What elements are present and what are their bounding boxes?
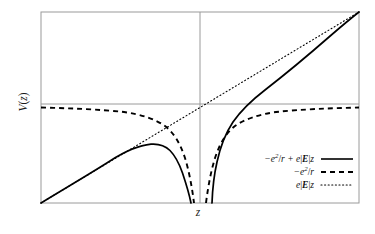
- legend-sample-solid: [320, 154, 354, 164]
- legend-item-total-potential: −e2/r + e|E|z: [222, 152, 354, 165]
- legend-label-field-potential: e|E|z: [296, 180, 320, 190]
- legend-label-total-potential: −e2/r + e|E|z: [264, 152, 320, 164]
- legend-sample-dashed: [320, 167, 354, 177]
- legend-item-coulomb-potential: −e2/r: [222, 165, 354, 178]
- legend-label-coulomb-potential: −e2/r: [294, 165, 320, 177]
- legend: −e2/r + e|E|z −e2/r e|E|z: [222, 152, 354, 191]
- plot-canvas: [0, 0, 375, 234]
- x-axis-label: z: [186, 206, 210, 218]
- legend-sample-dotted: [320, 180, 354, 190]
- y-axis-label: V(z): [17, 87, 29, 117]
- figure-container: V(z) z −e2/r + e|E|z −e2/r e|E|z: [0, 0, 375, 234]
- legend-item-field-potential: e|E|z: [222, 178, 354, 191]
- curve-total-potential-left: [41, 144, 191, 203]
